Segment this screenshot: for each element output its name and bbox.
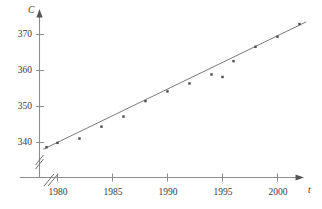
- data-point: [254, 46, 256, 48]
- y-tick-label-340: 340: [8, 138, 32, 148]
- data-point: [188, 82, 190, 84]
- co2-scatter-figure: 370 360 350 340 1980 1985 1990 1995 2000…: [0, 0, 322, 209]
- data-point: [276, 35, 278, 37]
- x-axis-label: t: [308, 186, 311, 196]
- y-tick-label-370: 370: [8, 30, 32, 40]
- data-point: [122, 115, 124, 117]
- data-point: [166, 90, 168, 92]
- y-tick-label-360: 360: [8, 66, 32, 76]
- data-point: [56, 142, 58, 144]
- data-point: [210, 73, 212, 75]
- data-point: [45, 146, 47, 148]
- data-point: [144, 100, 146, 102]
- data-point: [100, 125, 102, 127]
- x-axis-break-icon: [44, 174, 58, 186]
- x-tick-label-1990: 1990: [153, 188, 183, 198]
- y-axis-arrow: [36, 9, 42, 18]
- x-tick-label-1980: 1980: [43, 188, 73, 198]
- x-tick-label-1995: 1995: [208, 188, 238, 198]
- data-point: [78, 137, 80, 139]
- y-axis-label: C: [28, 6, 34, 16]
- x-axis-arrow: [296, 174, 305, 180]
- y-tick-label-350: 350: [8, 102, 32, 112]
- x-tick-label-1985: 1985: [98, 188, 128, 198]
- data-point: [298, 23, 300, 25]
- data-point: [221, 76, 223, 78]
- x-tick-label-2000: 2000: [263, 188, 293, 198]
- regression-line: [43, 22, 306, 149]
- plot-area: [0, 0, 322, 209]
- data-point: [232, 60, 234, 62]
